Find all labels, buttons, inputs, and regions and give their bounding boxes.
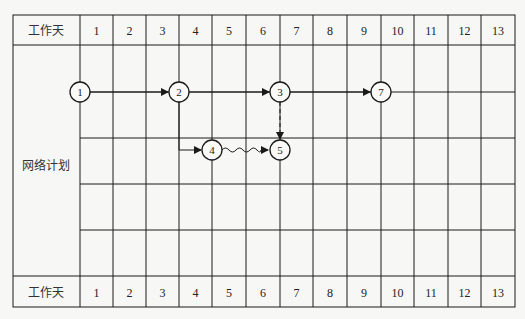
node-5: 5 — [270, 140, 290, 160]
footer-day: 7 — [294, 286, 300, 300]
footer-day: 13 — [492, 286, 504, 300]
svg-text:3: 3 — [277, 86, 283, 98]
footer-row: 工作天 1 2 3 4 5 6 7 8 9 10 11 12 13 — [28, 286, 504, 300]
table-border — [13, 15, 515, 307]
header-day: 3 — [160, 24, 166, 38]
node-3: 3 — [270, 82, 290, 102]
network-nodes: 1 2 3 7 4 5 — [70, 82, 391, 160]
footer-day: 9 — [361, 286, 367, 300]
network-arrows — [90, 92, 370, 152]
header-day: 9 — [361, 24, 367, 38]
footer-day: 12 — [459, 286, 471, 300]
header-day: 6 — [260, 24, 266, 38]
header-day: 1 — [94, 24, 100, 38]
footer-day: 3 — [160, 286, 166, 300]
svg-text:4: 4 — [209, 144, 215, 156]
svg-text:2: 2 — [176, 86, 182, 98]
footer-label: 工作天 — [28, 286, 64, 300]
arrow-2-4 — [179, 102, 201, 150]
footer-day: 6 — [260, 286, 266, 300]
header-day: 10 — [392, 24, 404, 38]
header-day: 13 — [492, 24, 504, 38]
header-day: 2 — [127, 24, 133, 38]
node-2: 2 — [169, 82, 189, 102]
header-day: 4 — [193, 24, 199, 38]
header-row: 工作天 1 2 3 4 5 6 7 8 9 10 11 12 13 — [28, 24, 504, 38]
footer-day: 11 — [425, 286, 437, 300]
node-1: 1 — [70, 82, 90, 102]
header-day: 7 — [294, 24, 300, 38]
header-day: 5 — [226, 24, 232, 38]
footer-day: 10 — [392, 286, 404, 300]
svg-text:1: 1 — [77, 86, 83, 98]
header-day: 8 — [327, 24, 333, 38]
svg-text:7: 7 — [378, 86, 384, 98]
header-day: 11 — [425, 24, 437, 38]
grid — [13, 15, 515, 307]
header-day: 12 — [459, 24, 471, 38]
header-label: 工作天 — [28, 24, 64, 38]
svg-text:5: 5 — [277, 144, 283, 156]
footer-day: 2 — [127, 286, 133, 300]
node-7: 7 — [371, 82, 391, 102]
footer-day: 5 — [226, 286, 232, 300]
wavy-arrow-4-5 — [222, 148, 268, 152]
footer-day: 1 — [94, 286, 100, 300]
body-label: 网络计划 — [22, 158, 70, 173]
time-scaled-network-diagram: 工作天 1 2 3 4 5 6 7 8 9 10 11 12 13 网络计划 工… — [0, 0, 525, 319]
footer-day: 8 — [327, 286, 333, 300]
node-4: 4 — [202, 140, 222, 160]
footer-day: 4 — [193, 286, 199, 300]
